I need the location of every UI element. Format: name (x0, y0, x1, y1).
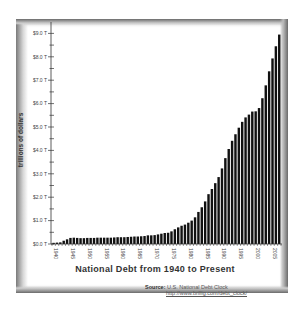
bar-2005 (271, 58, 273, 244)
bar-1954 (100, 238, 102, 244)
x-tick-label: 1950 (87, 248, 93, 259)
bar-1947 (76, 238, 78, 244)
bar-1958 (113, 237, 115, 244)
bar-1949 (83, 238, 85, 244)
y-tick-label: $0.0 T (33, 241, 47, 247)
bar-1988 (214, 183, 216, 244)
bar-1946 (73, 238, 75, 244)
y-axis: $0.0 T$1.0 T$2.0 T$3.0 T$4.0 T$5.0 T$6.0… (33, 22, 54, 247)
chart-title: National Debt from 1940 to Present (40, 264, 270, 274)
bar-1944 (66, 239, 68, 244)
bar-1973 (164, 233, 166, 244)
bar-1997 (244, 117, 246, 244)
bar-1968 (147, 235, 149, 244)
y-tick-label: $8.0 T (33, 54, 47, 60)
bar-1965 (137, 237, 139, 244)
bar-1977 (177, 227, 179, 244)
bar-1951 (89, 238, 91, 244)
x-tick-label: 1980 (188, 248, 194, 259)
x-tick-label: 2000 (255, 248, 261, 259)
bar-1995 (238, 128, 240, 244)
bar-1978 (180, 226, 182, 244)
x-tick-label: 1955 (104, 248, 110, 259)
bar-1983 (197, 212, 199, 244)
bars-group (52, 35, 280, 244)
bar-1952 (93, 238, 95, 244)
bar-1953 (96, 238, 98, 244)
bar-1971 (157, 234, 159, 244)
bar-1962 (126, 237, 128, 244)
x-tick-label: 1975 (171, 248, 177, 259)
y-tick-label: $2.0 T (33, 194, 47, 200)
x-tick-label: 1960 (120, 248, 126, 259)
bar-1963 (130, 237, 132, 244)
bar-1989 (217, 177, 219, 244)
bar-1964 (133, 237, 135, 244)
x-tick-label: 1990 (221, 248, 227, 259)
bar-1990 (221, 168, 223, 244)
bar-1991 (224, 158, 226, 244)
bar-1957 (110, 238, 112, 244)
bar-2000 (254, 111, 256, 244)
bar-1981 (190, 221, 192, 244)
bar-1950 (86, 238, 88, 244)
bar-1969 (150, 235, 152, 244)
bar-1966 (140, 236, 142, 244)
source-label: Source: (145, 284, 165, 290)
y-axis-title: trillions of dollars (17, 112, 24, 167)
bar-1996 (241, 122, 243, 244)
bar-1956 (106, 238, 108, 244)
bar-1972 (160, 234, 162, 244)
bar-1976 (174, 229, 176, 244)
bar-1993 (231, 141, 233, 244)
x-tick-label: 1985 (205, 248, 211, 259)
bar-1979 (184, 225, 186, 244)
bar-1985 (204, 201, 206, 244)
x-tick-label: 1965 (137, 248, 143, 259)
bar-2001 (258, 108, 260, 244)
y-tick-label: $9.0 T (33, 30, 47, 36)
bar-1945 (69, 238, 71, 244)
bar-1967 (143, 236, 145, 244)
bar-1982 (194, 217, 196, 244)
bar-1987 (211, 189, 213, 244)
x-tick-label: 1945 (70, 248, 76, 259)
bar-1948 (79, 238, 81, 244)
bar-1994 (234, 134, 236, 244)
bar-2006 (275, 46, 277, 244)
x-axis: 1940194519501955196019651970197519801985… (51, 244, 282, 259)
bar-1999 (251, 112, 253, 244)
bar-1980 (187, 223, 189, 244)
y-tick-label: $5.0 T (33, 124, 47, 130)
bar-1960 (120, 237, 122, 244)
bar-2007 (278, 35, 280, 244)
bar-2002 (261, 98, 263, 244)
y-tick-label: $4.0 T (33, 147, 47, 153)
bar-1955 (103, 238, 105, 244)
x-tick-label: 2005 (272, 248, 278, 259)
bar-1975 (170, 231, 172, 244)
bar-1961 (123, 237, 125, 244)
bar-1959 (116, 237, 118, 244)
bar-2004 (268, 71, 270, 244)
bar-1943 (63, 241, 65, 244)
bar-1986 (207, 194, 209, 244)
y-tick-label: $3.0 T (33, 171, 47, 177)
source-url-link[interactable]: http://www.brillig.com/debt_clock/ (166, 290, 247, 296)
bar-1992 (228, 149, 230, 244)
y-tick-label: $1.0 T (33, 217, 47, 223)
x-tick-label: 1940 (53, 248, 59, 259)
x-tick-label: 1970 (154, 248, 160, 259)
bar-1974 (167, 233, 169, 244)
bar-1984 (201, 207, 203, 244)
bar-1998 (248, 115, 250, 244)
x-tick-label: 1995 (238, 248, 244, 259)
y-tick-label: $7.0 T (33, 77, 47, 83)
bar-1970 (153, 235, 155, 244)
bar-2003 (265, 85, 267, 244)
y-tick-label: $6.0 T (33, 100, 47, 106)
